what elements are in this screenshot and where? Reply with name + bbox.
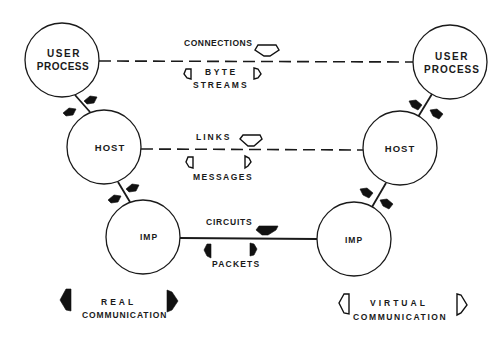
packets-label: PACKETS [212,259,260,269]
legend-real-left-arrow [60,289,71,311]
legend-virtual-communication: VIRTUAL COMMUNICATION [339,294,467,322]
host-right-node: HOST [363,111,437,185]
imp-right-node: IMP [317,202,391,276]
messages-right-arrow [245,156,251,168]
real-arrow-up-user-host-left-a [63,108,76,116]
real-arrow-user-host-right-a [409,100,422,110]
imp-right-label: IMP [345,235,363,245]
circuits-down-arrow [256,226,278,235]
connections-label: CONNECTIONS [184,38,252,48]
legend-virtual-left-arrow [339,294,349,314]
real-arrow-host-imp-right-b [380,199,393,209]
legend-virtual-label-2: COMMUNICATION [353,312,447,322]
connections-down-arrow [255,45,279,56]
legend-real-communication: REAL COMMUNICATION [60,289,178,320]
real-arrow-host-imp-right-a [360,188,373,198]
circuits-label: CIRCUITS [206,217,253,227]
legend-real-label-1: REAL [101,297,136,307]
circuits-line [180,238,317,239]
byte-streams-right-arrow [254,68,261,79]
messages-label: MESSAGES [193,172,253,182]
real-arrow-user-host-right-b [430,109,443,119]
host-left-label: HOST [95,142,125,153]
imp-left-label: IMP [140,232,158,242]
real-arrow-down-user-host-left-b [84,96,97,104]
real-arrow-host-imp-left-a [108,195,121,203]
legend-virtual-right-arrow [457,294,467,315]
legend-real-right-arrow [167,290,178,312]
messages-left-arrow [186,157,193,168]
imp-left-node: IMP [106,200,180,274]
user-process-left-label-2: PROCESS [37,61,89,72]
legend-real-label-2: COMMUNICATION [82,310,167,320]
links-line [141,149,363,150]
legend-virtual-label-1: VIRTUAL [370,298,428,308]
host-right-label: HOST [385,143,415,154]
user-process-right-label-1: USER [435,51,469,62]
network-layer-diagram: USER PROCESS USER PROCESS HOST HOST IMP … [0,0,504,340]
user-process-left-label-1: USER [47,48,81,59]
packets-right-arrow [250,243,257,256]
connections-line [99,61,413,62]
byte-streams-left-arrow [184,69,191,79]
user-process-left-node: USER PROCESS [25,23,99,97]
byte-label: BYTE [205,67,238,77]
packets-left-arrow [204,244,211,258]
links-label: LINKS [196,132,232,142]
links-down-arrow [240,135,262,146]
user-process-right-node: USER PROCESS [413,25,487,99]
real-arrow-host-imp-left-b [126,184,139,192]
streams-label: STREAMS [193,80,249,90]
host-left-node: HOST [67,110,141,184]
user-process-right-label-2: PROCESS [424,64,480,75]
